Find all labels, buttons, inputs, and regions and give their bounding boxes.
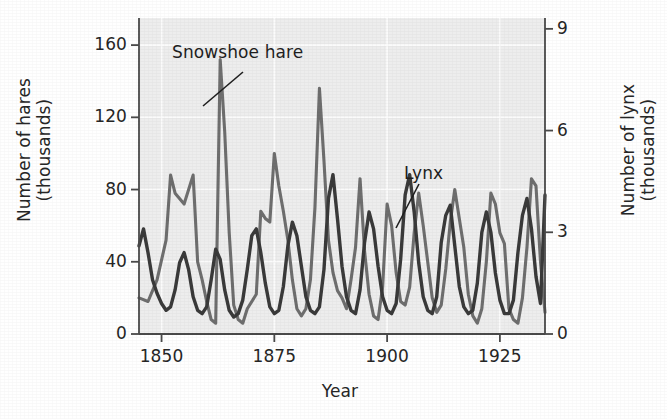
snowshoe-hare-label: Snowshoe hare xyxy=(172,42,303,62)
y-axis-left-tick-80: 80 xyxy=(71,179,127,199)
lynx-label: Lynx xyxy=(404,163,443,183)
x-axis-ticks xyxy=(162,334,500,342)
y-axis-right-ticks xyxy=(545,29,553,334)
y-axis-left-tick-160: 160 xyxy=(71,34,127,54)
x-axis-tick-1850: 1850 xyxy=(127,346,197,366)
y-axis-left-tick-40: 40 xyxy=(71,251,127,271)
hare-lynx-population-chart: Number of hares (thousands) Number of ly… xyxy=(0,0,667,419)
x-axis-tick-1900: 1900 xyxy=(352,346,422,366)
x-axis-tick-1875: 1875 xyxy=(239,346,309,366)
y-axis-right-tick-0: 0 xyxy=(557,323,597,343)
y-axis-right-tick-3: 3 xyxy=(557,221,597,241)
chart-canvas xyxy=(0,0,667,419)
y-axis-left-tick-120: 120 xyxy=(71,106,127,126)
x-axis-tick-1925: 1925 xyxy=(465,346,535,366)
y-axis-left-tick-0: 0 xyxy=(71,323,127,343)
y-axis-right-tick-9: 9 xyxy=(557,18,597,38)
y-axis-left-title: Number of hares (thousands) xyxy=(14,50,54,250)
y-axis-left-ticks xyxy=(131,45,139,334)
y-axis-right-title: Number of lynx (thousands) xyxy=(618,50,658,250)
x-axis-title: Year xyxy=(230,381,450,401)
y-axis-right-tick-6: 6 xyxy=(557,120,597,140)
